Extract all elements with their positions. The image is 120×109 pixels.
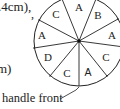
wheel-center-hub: [77, 39, 81, 43]
segment-label: C: [52, 8, 59, 20]
segment-label: D: [44, 51, 52, 63]
handle-front-label: handle front: [2, 92, 63, 105]
segment-label: C: [102, 51, 109, 63]
segment-label: A: [108, 29, 116, 41]
spoke-end-dots: [33, 18, 119, 77]
segment-label: B: [94, 9, 101, 21]
segment-label: A: [38, 29, 46, 41]
segment-label: A: [75, 1, 83, 13]
segment-label: A: [84, 66, 91, 78]
segment-label: C: [63, 67, 70, 79]
